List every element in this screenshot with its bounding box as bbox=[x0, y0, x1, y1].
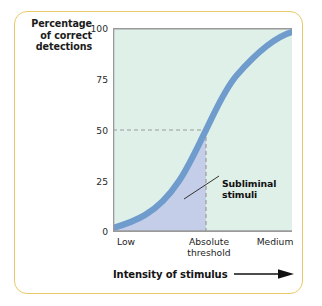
x-axis-title-group: Intensity of stimulus bbox=[113, 268, 298, 280]
x-tick-label-medium: Medium bbox=[252, 236, 298, 247]
y-tick-label-100: 100 bbox=[86, 24, 108, 34]
y-tick-label-25: 25 bbox=[86, 177, 108, 187]
figure-container: Percentage of correct detections 100 75 … bbox=[0, 0, 322, 306]
right-arrow-icon bbox=[234, 268, 296, 280]
x-axis-title: Intensity of stimulus bbox=[113, 269, 227, 280]
plot-area bbox=[113, 28, 292, 232]
subliminal-stimuli-annotation: Subliminal stimuli bbox=[222, 178, 276, 200]
y-tick-label-0: 0 bbox=[86, 227, 108, 237]
y-axis-title: Percentage of correct detections bbox=[24, 18, 92, 53]
y-tick-label-75: 75 bbox=[86, 75, 108, 85]
x-tick-label-low: Low bbox=[108, 236, 144, 247]
x-tick-label-absolute-threshold: Absolute threshold bbox=[178, 236, 240, 258]
y-tick-label-50: 50 bbox=[86, 126, 108, 136]
